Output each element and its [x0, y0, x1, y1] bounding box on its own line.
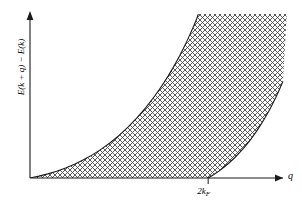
x-tick-label-sub: F — [206, 190, 210, 198]
chart-canvas — [0, 0, 302, 210]
y-axis-arrowhead — [27, 11, 34, 20]
continuum-fill — [30, 10, 287, 178]
x-axis-label: q — [288, 170, 293, 181]
figure-container: E(k + q) − E(k) 2kF q — [0, 0, 302, 210]
x-axis-arrowhead — [275, 175, 283, 182]
shaded-continuum-region — [30, 10, 287, 178]
x-tick-label-main: 2k — [197, 186, 206, 196]
x-tick-label-2kf: 2kF — [197, 186, 210, 196]
